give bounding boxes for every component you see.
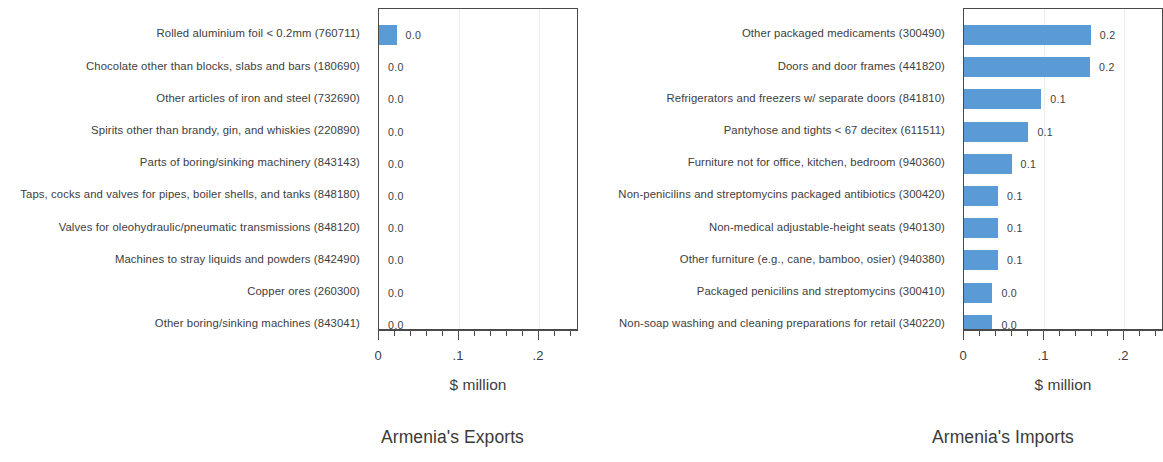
category-label: Copper ores (260300) <box>247 286 360 297</box>
bar-value-label: 0.0 <box>406 29 422 41</box>
bar-row: 0.0 <box>379 51 577 83</box>
category-label-row: Copper ores (260300) <box>0 276 360 308</box>
bar-row: 0.0 <box>379 116 577 148</box>
bar-row: 0.0 <box>964 309 1162 330</box>
bar-row: 0.0 <box>379 148 577 180</box>
imports-bars: 0.20.20.10.10.10.10.10.10.00.0 <box>964 9 1162 329</box>
category-label: Refrigerators and freezers w/ separate d… <box>666 93 945 104</box>
bar-row: 0.0 <box>379 244 577 276</box>
category-label: Rolled aluminium foil < 0.2mm (760711) <box>157 28 360 39</box>
bar-row: 0.1 <box>964 212 1162 244</box>
bar-value-label: 0.1 <box>1037 126 1053 138</box>
bar-value-label: 0.0 <box>1001 319 1017 330</box>
bar-value-label: 0.0 <box>388 254 404 266</box>
axis-tick-minor <box>442 330 443 336</box>
exports-bars: 0.00.00.00.00.00.00.00.00.00.0 <box>379 9 577 329</box>
bar-value-label: 0.0 <box>388 126 404 138</box>
category-label: Packaged penicilins and streptomycins (3… <box>697 286 945 297</box>
category-label-row: Other furniture (e.g., cane, bamboo, osi… <box>585 243 945 275</box>
x-tick-label: .1 <box>453 348 464 363</box>
bar <box>964 315 992 330</box>
axis-tick-minor <box>1107 330 1108 336</box>
category-label: Machines to stray liquids and powders (8… <box>115 254 360 265</box>
bar-value-label: 0.1 <box>1050 93 1066 105</box>
category-label: Other packaged medicaments (300490) <box>742 28 945 39</box>
axis-line <box>378 330 578 331</box>
bar <box>964 57 1090 77</box>
bar-value-label: 0.2 <box>1100 29 1116 41</box>
category-label: Other furniture (e.g., cane, bamboo, osi… <box>680 254 945 265</box>
bar-value-label: 0.0 <box>1001 287 1017 299</box>
axis-tick-minor <box>1075 330 1076 336</box>
bar-value-label: 0.0 <box>388 158 404 170</box>
category-label: Pantyhose and tights < 67 decitex (61151… <box>724 125 945 136</box>
category-label: Non-soap washing and cleaning preparatio… <box>619 318 945 329</box>
imports-x-axis <box>963 330 1163 344</box>
category-label-row: Other packaged medicaments (300490) <box>585 18 945 50</box>
axis-tick-minor <box>979 330 980 336</box>
axis-tick-major <box>963 330 964 340</box>
exports-x-axis <box>378 330 578 344</box>
bar-row: 0.1 <box>964 148 1162 180</box>
bar-row: 0.0 <box>379 180 577 212</box>
category-label-row: Other boring/sinking machines (843041) <box>0 308 360 340</box>
category-label-row: Other articles of iron and steel (732690… <box>0 82 360 114</box>
bar-value-label: 0.0 <box>388 61 404 73</box>
imports-chart-panel: Other packaged medicaments (300490)Doors… <box>585 0 1144 462</box>
axis-tick-minor <box>1059 330 1060 336</box>
category-label: Non-penicilins and streptomycins package… <box>618 189 945 200</box>
axis-tick-minor <box>570 330 571 336</box>
bar-row: 0.0 <box>379 212 577 244</box>
category-label-row: Non-medical adjustable-height seats (940… <box>585 211 945 243</box>
category-label-row: Doors and door frames (441820) <box>585 50 945 82</box>
category-label-row: Taps, cocks and valves for pipes, boiler… <box>0 179 360 211</box>
axis-tick-major <box>458 330 459 340</box>
bar <box>379 25 397 45</box>
bar <box>964 250 998 270</box>
axis-tick-major <box>1123 330 1124 340</box>
axis-tick-minor <box>1091 330 1092 336</box>
axis-tick-minor <box>1139 330 1140 336</box>
category-label: Spirits other than brandy, gin, and whis… <box>91 125 360 136</box>
imports-chart-title: Armenia's Imports <box>932 427 1074 448</box>
category-label: Other articles of iron and steel (732690… <box>156 93 360 104</box>
category-label: Doors and door frames (441820) <box>778 61 945 72</box>
axis-tick-minor <box>522 330 523 336</box>
bar-row: 0.1 <box>964 116 1162 148</box>
bar-value-label: 0.0 <box>388 287 404 299</box>
bar-value-label: 0.0 <box>388 222 404 234</box>
axis-tick-minor <box>410 330 411 336</box>
category-label: Parts of boring/sinking machinery (84314… <box>140 157 360 168</box>
axis-tick-minor <box>506 330 507 336</box>
category-label: Other boring/sinking machines (843041) <box>155 318 360 329</box>
bar <box>964 283 992 303</box>
bar-row: 0.0 <box>379 83 577 115</box>
exports-x-axis-title: $ million <box>450 376 507 394</box>
exports-chart-panel: Rolled aluminium foil < 0.2mm (760711)Ch… <box>0 0 600 462</box>
category-label-row: Valves for oleohydraulic/pneumatic trans… <box>0 211 360 243</box>
bar <box>964 89 1041 109</box>
category-label-row: Packaged penicilins and streptomycins (3… <box>585 276 945 308</box>
bar-value-label: 0.0 <box>388 190 404 202</box>
bar-value-label: 0.2 <box>1099 61 1115 73</box>
axis-tick-major <box>378 330 379 340</box>
bar-value-label: 0.0 <box>388 93 404 105</box>
x-tick-label: .1 <box>1038 348 1049 363</box>
bar-value-label: 0.1 <box>1021 158 1037 170</box>
bar-row: 0.0 <box>379 277 577 309</box>
axis-tick-minor <box>995 330 996 336</box>
bar <box>964 154 1012 174</box>
category-label: Chocolate other than blocks, slabs and b… <box>86 61 360 72</box>
category-label-row: Machines to stray liquids and powders (8… <box>0 243 360 275</box>
exports-chart-title: Armenia's Exports <box>381 427 524 448</box>
category-label-row: Rolled aluminium foil < 0.2mm (760711) <box>0 18 360 50</box>
bar <box>964 122 1028 142</box>
bar-value-label: 0.0 <box>388 319 404 330</box>
category-label: Taps, cocks and valves for pipes, boiler… <box>20 189 360 200</box>
axis-tick-minor <box>426 330 427 336</box>
axis-tick-minor <box>554 330 555 336</box>
axis-line <box>963 330 1163 331</box>
category-label: Valves for oleohydraulic/pneumatic trans… <box>59 222 360 233</box>
imports-plot-area: 0.20.20.10.10.10.10.10.10.00.0 <box>963 8 1163 330</box>
category-label-row: Refrigerators and freezers w/ separate d… <box>585 82 945 114</box>
